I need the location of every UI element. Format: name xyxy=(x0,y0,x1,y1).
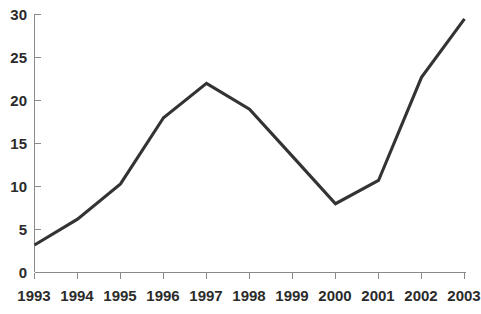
x-tick-marks xyxy=(35,273,465,280)
y-axis-tick-label: 15 xyxy=(0,136,27,151)
y-axis-tick-label: 25 xyxy=(0,50,27,65)
y-axis-tick-label: 10 xyxy=(0,179,27,194)
y-axis-tick-label: 30 xyxy=(0,7,27,22)
data-series-line xyxy=(35,19,465,245)
y-axis-tick-label: 5 xyxy=(0,222,27,237)
line-chart: 30 25 20 15 10 5 0 1993 1994 1995 1996 1… xyxy=(0,0,481,314)
y-axis-tick-label: 0 xyxy=(0,265,27,280)
y-tick-marks xyxy=(35,15,42,273)
chart-plot-area xyxy=(0,0,481,314)
y-axis-tick-label: 20 xyxy=(0,93,27,108)
x-axis-tick-label: 2003 xyxy=(434,288,481,303)
